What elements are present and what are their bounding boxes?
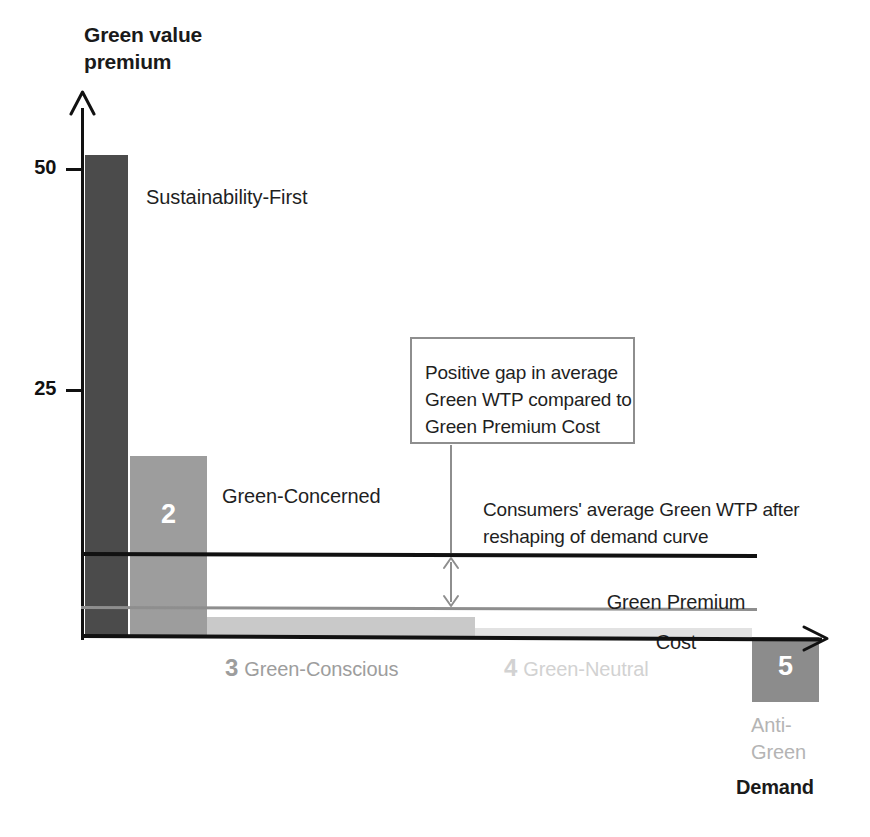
bar-label-sustainability-first: Sustainability-First bbox=[146, 186, 307, 209]
bar-label-green-neutral-text: Green-Neutral bbox=[523, 658, 648, 680]
positive-gap-callout-text: Positive gap in average Green WTP compar… bbox=[425, 360, 633, 441]
y-axis-arrow-icon bbox=[68, 90, 98, 116]
bar-label-anti-green-line-2: Green bbox=[751, 739, 841, 766]
gap-double-arrow-icon bbox=[438, 556, 464, 608]
y-axis-title: Green value premium bbox=[84, 22, 324, 76]
bar-number-4: 4 bbox=[504, 654, 517, 681]
callout-connector-line bbox=[450, 445, 452, 553]
bar-label-green-conscious-text: Green-Conscious bbox=[244, 658, 398, 680]
wtp-line-annotation: Consumers' average Green WTP after resha… bbox=[483, 497, 823, 551]
green-value-premium-chart: Green value premium 50 25 2 5 Sustainabi… bbox=[0, 0, 870, 837]
premium-cost-annotation-line-1: Green Premium bbox=[576, 588, 776, 617]
x-axis-title: Demand bbox=[736, 776, 814, 799]
y-tick-label-25: 25 bbox=[12, 377, 56, 400]
y-axis-line bbox=[81, 108, 84, 640]
y-axis-title-line-1: Green value bbox=[84, 22, 324, 49]
x-axis-arrow-icon bbox=[800, 624, 832, 654]
y-tick-mark-25 bbox=[66, 389, 82, 392]
bar-number-3: 3 bbox=[225, 654, 238, 681]
bar-number-2: 2 bbox=[130, 499, 207, 530]
bar-label-anti-green-line-1: Anti- bbox=[751, 712, 841, 739]
y-tick-label-50: 50 bbox=[12, 156, 56, 179]
positive-gap-callout-box: Positive gap in average Green WTP compar… bbox=[410, 337, 635, 444]
bar-label-green-conscious: 3Green-Conscious bbox=[225, 654, 398, 682]
bar-label-green-concerned: Green-Concerned bbox=[222, 485, 381, 508]
premium-cost-annotation: Green Premium Cost bbox=[576, 588, 776, 657]
y-axis-title-line-2: premium bbox=[84, 49, 324, 76]
premium-cost-annotation-line-2: Cost bbox=[576, 628, 776, 657]
bar-label-green-neutral: 4Green-Neutral bbox=[504, 654, 649, 682]
y-tick-mark-50 bbox=[66, 168, 82, 171]
bar-green-concerned: 2 bbox=[130, 456, 207, 637]
bar-sustainability-first bbox=[85, 155, 128, 637]
bar-label-anti-green: Anti- Green bbox=[751, 712, 841, 766]
